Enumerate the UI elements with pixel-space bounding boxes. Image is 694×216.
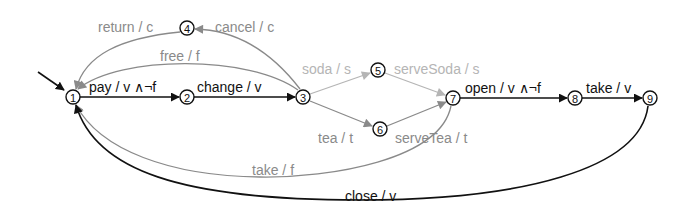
svg-text:8: 8 (572, 93, 578, 105)
label-take-f: take / f (252, 162, 294, 178)
edge-6-7 (387, 102, 446, 126)
state-5: 5 (371, 63, 385, 77)
state-8: 8 (568, 91, 582, 105)
svg-text:2: 2 (184, 92, 190, 104)
label-cancel: cancel / c (215, 19, 274, 35)
label-serve-soda: serveSoda / s (394, 61, 480, 77)
state-9: 9 (643, 91, 657, 105)
label-free: free / f (160, 48, 200, 64)
label-open: open / v ∧¬f (465, 80, 541, 96)
state-1: 1 (66, 90, 80, 104)
svg-text:1: 1 (70, 92, 76, 104)
edges (38, 29, 648, 200)
label-change: change / v (197, 79, 262, 95)
label-pay: pay / v ∧¬f (89, 79, 156, 95)
svg-text:3: 3 (300, 92, 306, 104)
svg-text:6: 6 (377, 124, 383, 136)
edge-labels: pay / v ∧¬f change / v free / f cancel /… (89, 19, 631, 204)
svg-text:4: 4 (184, 23, 190, 35)
svg-text:7: 7 (450, 93, 456, 105)
initial-arrow (38, 72, 64, 90)
label-return: return / c (98, 19, 153, 35)
state-7: 7 (446, 91, 460, 105)
edge-3-6 (310, 101, 372, 126)
svg-text:5: 5 (375, 65, 381, 77)
svg-text:9: 9 (647, 93, 653, 105)
state-machine-diagram: pay / v ∧¬f change / v free / f cancel /… (0, 0, 694, 216)
edge-9-1-close (76, 105, 648, 200)
label-close: close / v (345, 188, 396, 204)
label-tea: tea / t (318, 130, 353, 146)
state-4: 4 (180, 21, 194, 35)
label-soda: soda / s (302, 61, 351, 77)
state-6: 6 (373, 122, 387, 136)
state-2: 2 (180, 90, 194, 104)
state-3: 3 (296, 90, 310, 104)
label-take-v: take / v (586, 80, 631, 96)
label-serve-tea: serveTea / t (395, 130, 467, 146)
